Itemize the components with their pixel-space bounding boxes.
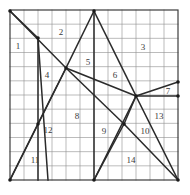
diagram-canvas	[0, 0, 190, 195]
vertex-dot-top-left-corner	[8, 9, 12, 13]
partition-segment-center-to-right-vertex	[66, 68, 136, 96]
vertex-dot-bottom-left-corner	[8, 178, 12, 182]
partition-diagram: 1234567891011121314	[0, 0, 190, 195]
partition-lines	[10, 11, 178, 180]
vertex-dot-right-edge-mid	[176, 94, 180, 98]
partition-segment-lower-center-to-br	[124, 124, 178, 180]
vertex-dot-bottom-apex	[92, 178, 96, 182]
vertex-dot-right-vertex	[134, 94, 138, 98]
partition-segment-apex-right-descend	[94, 11, 136, 96]
vertex-dot-bottom-right-corner	[176, 178, 180, 182]
partition-segment-right-vertex-to-br	[136, 96, 178, 180]
partition-segment-right-vertex-to-edge-up	[136, 82, 178, 96]
vertex-dot-left-mid-node	[36, 122, 40, 126]
vertex-dot-lower-center-vertex	[122, 122, 126, 126]
partition-segment-center-through-lower-center	[66, 68, 124, 124]
partition-segment-bottom-apex-up-right	[94, 96, 136, 180]
vertex-dot-center-vertex	[64, 66, 68, 70]
vertex-dot-top-apex	[92, 9, 96, 13]
vertex-dot-left-upper-node	[36, 36, 40, 40]
vertex-dot-right-edge-upper	[176, 80, 180, 84]
